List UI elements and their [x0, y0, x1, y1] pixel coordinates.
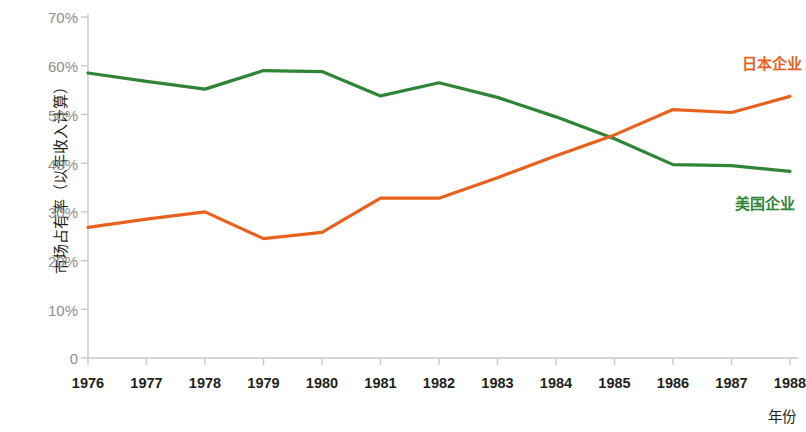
legend-label-usa: 美国企业 [735, 192, 795, 213]
x-tick-label: 1988 [774, 375, 806, 391]
x-tick-label: 1979 [247, 375, 279, 391]
x-tick-label: 1987 [715, 375, 747, 391]
x-axis-title: 年份 [768, 405, 796, 426]
x-axis-ticks [88, 358, 790, 365]
series-line-usa [88, 71, 790, 172]
x-tick-label: 1981 [364, 375, 396, 391]
x-tick-label: 1976 [72, 375, 104, 391]
x-tick-label: 1985 [598, 375, 630, 391]
x-tick-label: 1980 [306, 375, 338, 391]
x-tick-label: 1978 [189, 375, 221, 391]
x-tick-label: 1983 [481, 375, 513, 391]
x-tick-label: 1977 [130, 375, 162, 391]
y-axis-ticks [81, 17, 88, 358]
legend-label-japan: 日本企业 [742, 52, 802, 73]
x-tick-label: 1986 [657, 375, 689, 391]
x-tick-label: 1982 [423, 375, 455, 391]
x-tick-label: 1984 [540, 375, 572, 391]
series-line-japan [88, 96, 790, 238]
